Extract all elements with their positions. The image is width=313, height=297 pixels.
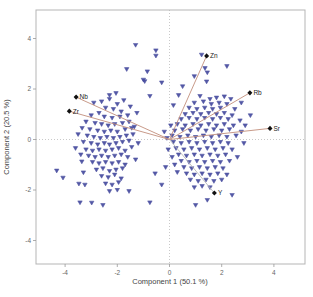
data-point-triangle: [107, 190, 111, 194]
data-point-triangle: [198, 94, 202, 98]
data-point-triangle: [222, 95, 226, 99]
data-point-triangle: [101, 167, 105, 171]
data-point-triangle: [212, 180, 216, 184]
data-point-triangle: [192, 101, 196, 105]
data-point-triangle: [73, 147, 77, 151]
data-point-triangle: [92, 135, 96, 139]
loading-marker-zr: [67, 109, 72, 114]
data-point-triangle: [106, 176, 110, 180]
data-point-triangle: [197, 166, 201, 170]
data-point-triangle: [86, 154, 90, 158]
data-point-triangle: [136, 142, 140, 146]
data-point-triangle: [203, 106, 207, 110]
data-point-triangle: [225, 65, 229, 69]
data-point-triangle: [93, 121, 97, 125]
data-point-triangle: [107, 169, 111, 173]
data-point-triangle: [201, 100, 205, 104]
data-point-triangle: [153, 172, 157, 176]
data-point-triangle: [94, 168, 98, 172]
loading-label-nb: Nb: [80, 93, 89, 100]
data-point-triangle: [216, 154, 220, 158]
data-point-triangle: [123, 163, 127, 167]
data-point-triangle: [210, 142, 214, 146]
data-point-triangle: [248, 114, 252, 118]
data-point-triangle: [78, 201, 82, 205]
data-point-triangle: [61, 176, 65, 180]
data-point-triangle: [135, 111, 139, 115]
data-point-triangle: [179, 159, 183, 163]
data-point-triangle: [209, 135, 213, 139]
data-point-triangle: [130, 145, 134, 149]
loading-vector-nb: [76, 97, 169, 139]
data-point-triangle: [163, 166, 167, 170]
data-point-triangle: [106, 156, 110, 160]
data-point-triangle: [110, 148, 114, 152]
data-point-triangle: [116, 181, 120, 185]
data-point-triangle: [123, 149, 127, 153]
loading-marker-nb: [74, 95, 79, 100]
x-tick-label: -2: [114, 269, 120, 276]
data-point-triangle: [196, 128, 200, 132]
data-point-triangle: [222, 123, 226, 127]
data-point-triangle: [180, 85, 184, 89]
data-point-triangle: [226, 142, 230, 146]
data-point-triangle: [79, 153, 83, 157]
data-point-triangle: [222, 111, 226, 115]
data-point-triangle: [187, 140, 191, 144]
y-tick-label: 0: [27, 136, 31, 143]
data-point-triangle: [173, 163, 177, 167]
data-point-triangle: [204, 80, 208, 84]
data-point-triangle: [200, 185, 204, 189]
data-point-triangle: [123, 128, 127, 132]
data-point-triangle: [55, 169, 59, 173]
loading-marker-zn: [204, 53, 209, 58]
data-point-triangle: [107, 143, 111, 147]
data-point-triangle: [103, 182, 107, 186]
data-point-triangle: [122, 99, 126, 103]
data-point-triangle: [221, 167, 225, 171]
data-point-triangle: [133, 43, 137, 47]
data-point-triangle: [192, 75, 196, 79]
data-point-triangle: [126, 156, 130, 160]
x-tick-label: -4: [62, 269, 68, 276]
data-point-triangle: [230, 148, 234, 152]
data-point-triangle: [216, 172, 220, 176]
data-point-triangle: [148, 201, 152, 205]
data-point-triangle: [111, 108, 115, 112]
data-point-triangle: [162, 130, 166, 134]
data-point-triangle: [184, 172, 188, 176]
x-tick-label: 2: [220, 269, 224, 276]
data-point-triangle: [85, 134, 89, 138]
x-tick-label: 0: [168, 269, 172, 276]
x-axis-title: Component 1 (50.1 %): [132, 277, 208, 286]
data-point-triangle: [110, 116, 114, 120]
data-point-triangle: [182, 148, 186, 152]
data-point-triangle: [113, 154, 117, 158]
data-point-triangle: [80, 126, 84, 130]
pca-biplot-figure: -4-2024-4-2024 ZnRbSrNbZrY Component 1 (…: [0, 0, 313, 297]
data-point-triangle: [192, 186, 196, 190]
data-point-triangle: [176, 153, 180, 157]
x-tick-label: 4: [272, 269, 276, 276]
data-point-triangle: [199, 124, 203, 128]
data-point-triangle: [214, 124, 218, 128]
data-point-triangle: [231, 124, 235, 128]
y-tick-label: -4: [25, 237, 31, 244]
data-point-triangle: [102, 115, 106, 119]
data-point-triangle: [218, 161, 222, 165]
data-point-triangle: [109, 129, 113, 133]
data-point-triangle: [118, 135, 122, 139]
data-point-triangle: [195, 118, 199, 122]
data-point-triangle: [83, 183, 87, 187]
data-point-triangle: [115, 103, 119, 107]
data-point-triangle: [220, 178, 224, 182]
data-point-triangle: [84, 120, 88, 124]
data-point-triangle: [160, 183, 164, 187]
data-point-triangle: [227, 128, 231, 132]
data-point-triangle: [205, 147, 209, 151]
data-point-triangle: [116, 161, 120, 165]
data-point-triangle: [114, 168, 118, 172]
data-point-triangle: [203, 140, 207, 144]
data-point-triangle: [103, 149, 107, 153]
data-point-triangle: [97, 148, 101, 152]
